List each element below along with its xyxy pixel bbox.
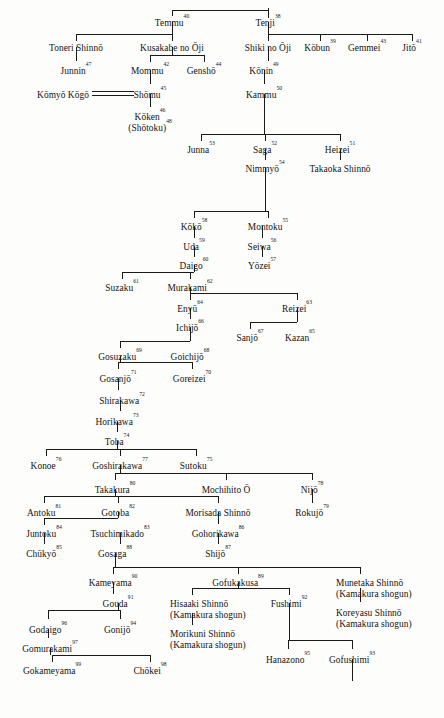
person-name: Takakura <box>95 485 130 495</box>
person-node-takaoka[interactable]: Takaoka Shinnō <box>309 164 370 175</box>
person-node-gensho[interactable]: Genshō44 <box>187 66 222 77</box>
person-name: Gemmei <box>348 43 381 53</box>
person-node-yozei[interactable]: Yōzei57 <box>248 261 276 272</box>
person-node-chokei[interactable]: Chōkei98 <box>134 666 167 677</box>
person-node-morisada[interactable]: Morisada Shinnō <box>185 508 250 519</box>
person-node-kobun[interactable]: Kōbun39 <box>304 43 335 54</box>
connector-line <box>122 272 194 273</box>
person-node-uda[interactable]: Uda59 <box>183 242 204 253</box>
person-node-goshirakawa[interactable]: Goshirakawa77 <box>92 461 148 472</box>
person-node-gouda[interactable]: Gouda91 <box>103 599 134 610</box>
person-node-gotoba[interactable]: Gotoba82 <box>101 508 135 519</box>
person-node-rokujo[interactable]: Rokujō79 <box>295 508 329 519</box>
person-node-takakura[interactable]: Takakura80 <box>95 485 136 496</box>
person-node-junnin[interactable]: Junnin47 <box>61 66 92 77</box>
person-name: Heizei <box>325 145 350 155</box>
person-node-gohorikawa[interactable]: Gohorikawa86 <box>192 529 244 540</box>
person-subtitle-text: (Kamakura shogun) <box>336 619 412 629</box>
person-node-kusakabe[interactable]: Kusakabe no Ōji <box>140 43 204 54</box>
person-node-kammu[interactable]: Kammu50 <box>246 90 282 101</box>
person-name: Horikawa <box>96 417 133 427</box>
person-name: Morisada Shinnō <box>185 508 250 518</box>
person-node-hanazono[interactable]: Hanazono95 <box>266 655 310 666</box>
person-node-junna[interactable]: Junna53 <box>187 145 215 156</box>
person-node-antoku[interactable]: Antoku81 <box>27 508 61 519</box>
person-node-konoe[interactable]: Konoe76 <box>31 461 62 472</box>
person-node-fushimi[interactable]: Fushimi92 <box>271 599 308 610</box>
person-node-gonijo[interactable]: Gonijō94 <box>104 625 136 636</box>
person-node-mommu[interactable]: Mommu42 <box>131 66 169 77</box>
connector-line <box>268 34 269 41</box>
reign-number: 97 <box>72 639 78 645</box>
person-node-nijo[interactable]: Nijō78 <box>301 485 323 496</box>
person-name: Gonijō <box>104 625 130 635</box>
person-node-seiwa[interactable]: Seiwa56 <box>248 242 277 253</box>
person-node-sutoku[interactable]: Sutoku75 <box>180 461 212 472</box>
person-node-koken[interactable]: Kōken46(Shōtoku)48 <box>128 112 172 133</box>
person-node-horikawa[interactable]: Horikawa73 <box>96 417 139 428</box>
connector-line <box>288 640 289 649</box>
person-node-munetaka[interactable]: Munetaka Shinnō(Kamakura shogun) <box>336 578 412 599</box>
person-node-mochihito[interactable]: Mochihito Ō <box>202 485 251 496</box>
person-node-gemmei[interactable]: Gemmei43 <box>348 43 386 54</box>
person-node-saga[interactable]: Saga52 <box>253 145 277 156</box>
person-node-shomu[interactable]: Shōmu45 <box>134 90 166 101</box>
person-node-gofukakusa[interactable]: Gofukakusa89 <box>212 578 263 589</box>
person-node-goreizei[interactable]: Goreizei70 <box>173 374 211 385</box>
reign-number: 92 <box>302 594 308 600</box>
person-name: Gosuzaku <box>98 352 136 362</box>
person-node-montoku[interactable]: Montoku55 <box>248 222 288 233</box>
person-node-nimmyo[interactable]: Nimmyō54 <box>245 164 284 175</box>
person-node-enyu[interactable]: Enyū64 <box>177 304 203 315</box>
person-name: Mommu <box>131 66 164 76</box>
person-name: Kusakabe no Ōji <box>140 43 204 53</box>
person-name: Yōzei <box>248 261 271 271</box>
person-node-komyo[interactable]: Kōmyō Kōgō <box>37 90 89 101</box>
connector-line <box>172 34 173 41</box>
person-node-reizei[interactable]: Reizei63 <box>282 304 312 315</box>
person-node-shiki[interactable]: Shiki no Ōji <box>245 43 291 54</box>
person-node-koreyasu[interactable]: Koreyasu Shinnō(Kamakura shogun) <box>336 608 412 629</box>
person-node-gofushimi[interactable]: Gofushimi93 <box>329 655 375 666</box>
person-name: Kameyama <box>89 578 132 588</box>
person-node-kazan[interactable]: Kazan65 <box>285 333 315 344</box>
person-node-morikuni[interactable]: Morikuni Shinnō(Kamakura shogun) <box>170 629 246 650</box>
person-name: Hanazono <box>266 655 304 665</box>
person-node-goichijo[interactable]: Goichijō68 <box>171 352 210 363</box>
person-node-heizei[interactable]: Heizei51 <box>325 145 355 156</box>
person-node-murakami[interactable]: Murakami62 <box>167 283 212 294</box>
reign-number: 43 <box>381 38 387 44</box>
reign-number: 65 <box>309 328 315 334</box>
person-node-toba[interactable]: Toba74 <box>105 437 129 448</box>
person-node-gomurakami[interactable]: Gomurakami97 <box>22 644 78 655</box>
person-node-hisaaki[interactable]: Hisaaki Shinnō(Kamakura shogun) <box>170 599 246 620</box>
person-node-sanjo[interactable]: Sanjō67 <box>236 333 263 344</box>
person-node-toneri[interactable]: Toneri Shinnō <box>49 43 103 54</box>
person-node-ichijo[interactable]: Ichijō66 <box>176 323 204 334</box>
person-node-suzaku[interactable]: Suzaku61 <box>105 283 139 294</box>
person-node-gosanjo[interactable]: Gosanjō71 <box>99 374 136 385</box>
person-node-koko[interactable]: Kōkō58 <box>181 222 208 233</box>
person-node-jito[interactable]: Jitō41 <box>402 43 421 54</box>
person-node-konin[interactable]: Kōnin49 <box>249 66 278 77</box>
reign-number: 78 <box>318 480 324 486</box>
person-node-godaigo[interactable]: Godaigo96 <box>29 625 67 636</box>
person-node-shijo[interactable]: Shijō87 <box>205 549 231 560</box>
person-name: Junnin <box>61 66 86 76</box>
person-node-gosaga[interactable]: Gosaga88 <box>98 549 132 560</box>
person-node-tsuchimikado[interactable]: Tsuchimikado83 <box>90 529 149 540</box>
person-node-chukyo[interactable]: Chūkyō85 <box>26 549 62 560</box>
person-node-temmu[interactable]: Temmu40 <box>155 18 189 29</box>
person-name: Genshō <box>187 66 216 76</box>
person-name: Rokujō <box>295 508 323 518</box>
person-name: Enyū <box>177 304 197 314</box>
person-node-kameyama[interactable]: Kameyama90 <box>89 578 138 589</box>
person-name: Goichijō <box>171 352 204 362</box>
person-node-gosuzaku[interactable]: Gosuzaku69 <box>98 352 142 363</box>
person-node-tenji[interactable]: Tenji38 <box>256 18 281 29</box>
person-node-gokameyama[interactable]: Gokameyama99 <box>23 666 81 677</box>
connector-line <box>250 322 297 323</box>
person-node-shirakawa[interactable]: Shirakawa72 <box>99 396 145 407</box>
person-node-daigo[interactable]: Daigo60 <box>180 261 209 272</box>
person-node-juntoku[interactable]: Juntoku84 <box>26 529 62 540</box>
